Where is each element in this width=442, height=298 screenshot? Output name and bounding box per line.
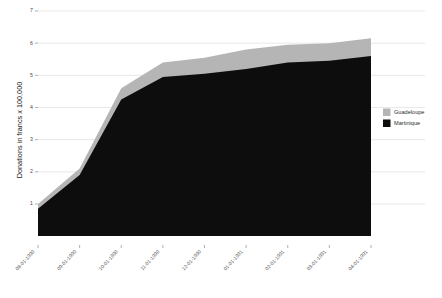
legend-swatch xyxy=(383,109,391,117)
y-tick-label: 1 xyxy=(30,200,33,206)
chart-container: 1234567 08-01-199009-01-199010-01-199011… xyxy=(0,0,442,298)
area-chart: 1234567 08-01-199009-01-199010-01-199011… xyxy=(0,0,442,298)
legend-swatch xyxy=(383,120,391,128)
y-tick-label: 3 xyxy=(30,136,33,142)
y-tick-label: 5 xyxy=(30,72,33,78)
y-tick-label: 7 xyxy=(30,7,33,13)
y-tick-label: 4 xyxy=(30,104,33,110)
legend-label: Martinique xyxy=(394,120,420,126)
y-axis-title: Donations in francs x 100,000 xyxy=(15,82,24,179)
y-tick-label: 6 xyxy=(30,40,33,46)
legend-label: Guadeloupe xyxy=(394,109,424,115)
y-tick-label: 2 xyxy=(30,168,33,174)
